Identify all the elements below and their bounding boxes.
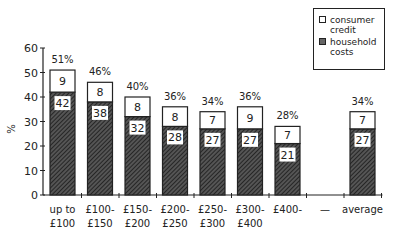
value-label-household: 27: [356, 134, 370, 147]
x-tick-label: £200: [125, 218, 150, 229]
total-label: 34%: [201, 96, 223, 107]
legend-label: household costs: [330, 37, 377, 57]
value-label-credit: 8: [172, 111, 179, 124]
legend-label: consumer credit: [330, 15, 375, 35]
y-tick-label: 40: [24, 91, 38, 104]
x-tick-label: £400: [237, 218, 262, 229]
x-tick-label: £200-: [160, 204, 189, 215]
x-tick-label: £150: [87, 218, 112, 229]
value-label-credit: 7: [359, 114, 366, 127]
value-label-credit: 9: [59, 75, 66, 88]
y-tick-label: 20: [24, 140, 38, 153]
x-tick-label: £100-: [85, 204, 114, 215]
value-label-credit: 9: [247, 112, 254, 125]
y-tick-label: 60: [24, 42, 38, 55]
x-tick-label: £150-: [123, 204, 152, 215]
x-tick-label: £300-: [235, 204, 264, 215]
total-label: 36%: [164, 91, 186, 102]
legend-swatch-hatched: [319, 38, 326, 45]
x-tick-label: £100: [50, 218, 75, 229]
total-label: 40%: [126, 81, 148, 92]
value-label-credit: 8: [97, 86, 104, 99]
total-label: 34%: [351, 96, 373, 107]
value-label-household: 21: [281, 149, 295, 162]
bar-group: 21728%: [275, 110, 300, 195]
bar-group: 27734%: [350, 96, 375, 195]
bar-group: 27734%: [200, 96, 225, 195]
bar-group: 27936%: [238, 91, 263, 195]
bar-group: 32840%: [125, 81, 150, 195]
total-label: 51%: [51, 54, 73, 65]
bars: 42951%38846%32840%28836%27734%27936%2172…: [50, 54, 375, 195]
total-label: 36%: [239, 91, 261, 102]
y-tick-label: 10: [24, 165, 38, 178]
legend: consumer credit household costs: [313, 8, 385, 70]
y-tick-label: 50: [24, 67, 38, 80]
x-tick-label: —: [320, 204, 330, 215]
x-tick-label: £300: [200, 218, 225, 229]
value-label-household: 38: [93, 107, 107, 120]
value-label-household: 32: [131, 122, 145, 135]
bar-group: 38846%: [88, 66, 113, 195]
value-label-credit: 7: [209, 114, 216, 127]
legend-swatch-white: [319, 16, 326, 23]
x-tick-label: £250: [162, 218, 187, 229]
bar-group: 28836%: [163, 91, 188, 195]
y-tick-label: 0: [31, 189, 38, 202]
value-label-household: 42: [56, 97, 70, 110]
value-label-credit: 7: [284, 129, 291, 142]
value-label-household: 27: [206, 134, 220, 147]
y-tick-label: 30: [24, 116, 38, 129]
x-tick-label: up to: [50, 204, 76, 215]
x-tick-label: average: [342, 204, 383, 215]
total-label: 46%: [89, 66, 111, 77]
value-label-household: 27: [243, 134, 257, 147]
value-label-credit: 8: [134, 101, 141, 114]
total-label: 28%: [276, 110, 298, 121]
y-axis-label: %: [6, 124, 17, 134]
bar-group: 42951%: [50, 54, 75, 195]
value-label-household: 28: [168, 131, 182, 144]
x-tick-label: £400-: [273, 204, 302, 215]
x-axis-labels: up to£100£100-£150£150-£200£200-£250£250…: [50, 204, 383, 229]
x-tick-label: £250-: [198, 204, 227, 215]
